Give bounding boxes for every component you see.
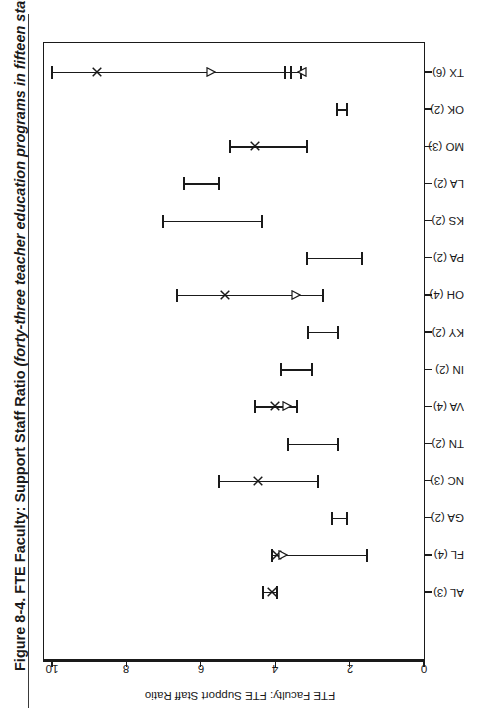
category-tick-label: TN (2) bbox=[420, 436, 478, 451]
category-tick-label: MO (3) bbox=[420, 139, 478, 154]
value-tick-label: 4 bbox=[263, 662, 287, 676]
value-axis-title: FTE Faculty: FTE Support Staff Ratio bbox=[120, 688, 360, 704]
category-tick-label: GA (2) bbox=[420, 510, 478, 525]
category-tick-label: TX (6) bbox=[420, 65, 478, 80]
category-tick-label: NC (3) bbox=[420, 473, 478, 488]
figure-number: Figure 8-4. bbox=[12, 598, 28, 671]
figure-title: FTE Faculty: Support Staff Ratio bbox=[12, 371, 28, 594]
category-tick-label: AL (3) bbox=[420, 585, 478, 600]
figure-subtitle: (forty-three teacher education programs … bbox=[12, 0, 28, 366]
value-tick-label: 8 bbox=[114, 662, 138, 676]
category-tick-label: FL (4) bbox=[420, 547, 478, 562]
category-tick-label: OK (2) bbox=[420, 102, 478, 117]
value-tick-label: 0 bbox=[412, 662, 436, 676]
category-tick-label: LA (2) bbox=[420, 176, 478, 191]
category-tick-label: OH (4) bbox=[420, 287, 478, 302]
category-tick-label: VA (4) bbox=[420, 399, 478, 414]
category-tick-label: KY (2) bbox=[420, 325, 478, 340]
figure-caption-container: Figure 8-4. FTE Faculty: Support Staff R… bbox=[0, 0, 28, 722]
category-tick-label: IN (2) bbox=[420, 362, 478, 377]
plot-frame bbox=[43, 42, 425, 660]
value-tick-label: 2 bbox=[338, 662, 362, 676]
figure-caption: Figure 8-4. FTE Faculty: Support Staff R… bbox=[7, 5, 33, 705]
value-axis-line bbox=[43, 660, 425, 662]
value-tick-label: 6 bbox=[189, 662, 213, 676]
category-tick-label: KS (2) bbox=[420, 213, 478, 228]
category-tick-label: PA (2) bbox=[420, 250, 478, 265]
value-tick-label: 10 bbox=[40, 662, 64, 676]
